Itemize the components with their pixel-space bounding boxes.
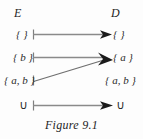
edge-empty-to-empty (33, 30, 112, 40)
edge-b-to-a (33, 53, 104, 63)
left-node-b: { b } (13, 51, 33, 63)
arrowhead-icon (98, 53, 113, 66)
edge-union-to-union (33, 101, 113, 111)
edge-shaft-diagonal (34, 60, 105, 82)
right-node-a-b: { a, b } (105, 74, 136, 86)
edge-ab-to-a (34, 60, 105, 86)
right-node-union-icon: ∪ (116, 99, 125, 111)
left-node-empty-set: { } (16, 28, 28, 40)
right-node-a: { a } (113, 51, 133, 63)
figure-9-1: E D { } ============ --> { a } =========… (0, 0, 143, 139)
figure-caption: Figure 9.1 (0, 118, 143, 133)
right-node-empty-set: { } (113, 28, 125, 40)
left-node-a-b: { a, b } (4, 74, 35, 86)
left-node-union-icon: ∪ (19, 99, 28, 111)
